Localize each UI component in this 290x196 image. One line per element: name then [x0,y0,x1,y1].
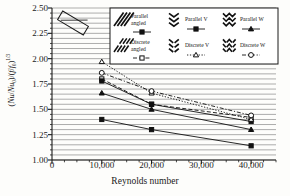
legend-label-parallel-v: Parallel V [185,16,207,22]
x-axis-tick-label: 10,000 [89,160,114,170]
x-axis-tick-labels: 010,00020,00030,00040,000 [0,158,290,174]
legend-label-discrete-v: Discrete V [185,42,209,48]
x-axis-title: Reynolds number [0,176,290,186]
legend-label-parallel-w: Parallel W [240,16,264,22]
y-axis-ticks [48,8,52,160]
data-series [100,77,254,120]
legend-label-parallel-angled: Parallel [131,13,149,19]
angled-rib-annotation [58,8,89,35]
x-axis-tick-label: 0 [50,160,55,170]
legend-label-discrete-angled-line2: angled [131,46,146,52]
legend-label-discrete-angled: Discrete [131,39,150,45]
x-axis-tick-label: 20,000 [139,160,164,170]
x-axis-tick-label: 40,000 [239,160,264,170]
data-series [99,91,254,132]
chart-figure: (Nu/Nu0)/(f/f0)1/3 1.001.251.501.752.002… [0,0,290,196]
data-series [100,117,254,148]
x-axis-tick-label: 30,000 [189,160,214,170]
legend-label-parallel-angled-line2: angled [131,20,146,26]
legend-box: ParallelangledDiscreteangledParallel VDi… [110,8,278,64]
legend-label-discrete-w: Discrete W [240,42,266,48]
data-series [100,79,254,124]
